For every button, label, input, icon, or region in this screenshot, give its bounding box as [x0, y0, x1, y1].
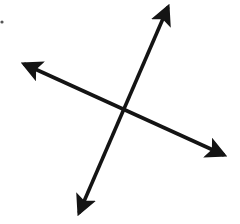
intersecting-lines-diagram	[0, 0, 240, 224]
line-b	[24, 64, 224, 155]
stray-mark	[0, 20, 3, 23]
